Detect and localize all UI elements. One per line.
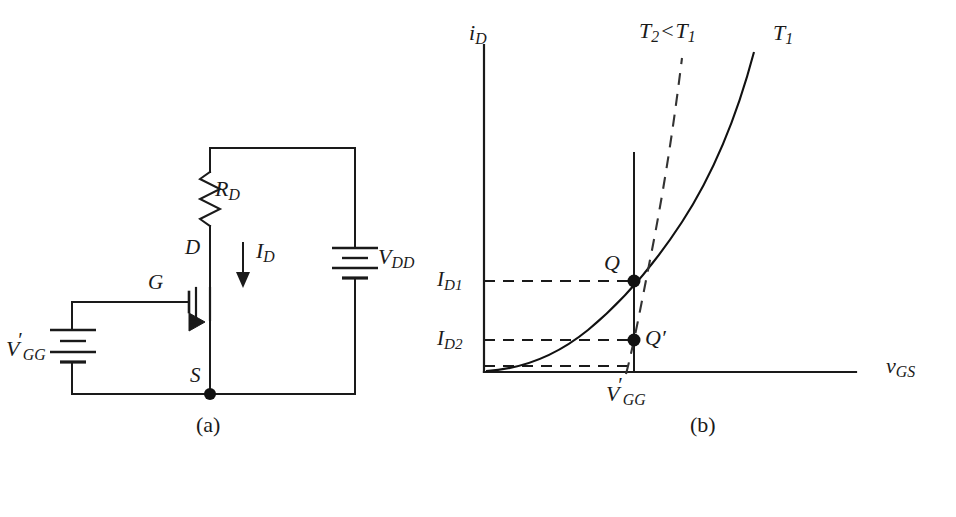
operating-point-Qprime-marker bbox=[628, 334, 641, 347]
annotation-temperature-relation: T2<T1 bbox=[639, 20, 696, 45]
battery-VGG-symbol bbox=[50, 330, 96, 372]
y-axis-label-iD: iD bbox=[469, 22, 487, 47]
label-VGG: V′GG bbox=[6, 330, 46, 363]
transfer-characteristic-chart bbox=[436, 0, 956, 420]
current-arrow-ID-head-icon bbox=[236, 272, 250, 288]
x-tick-label-VGG: V′GG bbox=[606, 375, 646, 408]
y-tick-label-ID1: ID1 bbox=[437, 269, 462, 293]
junction-dot-source bbox=[204, 388, 216, 400]
label-source-S: S bbox=[190, 365, 201, 386]
operating-point-Q-marker bbox=[628, 275, 641, 288]
y-tick-label-ID2: ID2 bbox=[437, 328, 462, 352]
label-VDD: VDD bbox=[378, 246, 414, 271]
label-operating-point-Qprime: Q′ bbox=[645, 327, 666, 349]
curve-T1 bbox=[486, 52, 754, 371]
x-axis-label-vGS: vGS bbox=[886, 355, 915, 380]
caption-b: (b) bbox=[690, 412, 716, 438]
caption-a: (a) bbox=[196, 412, 220, 438]
battery-VDD-symbol bbox=[332, 248, 378, 312]
label-operating-point-Q: Q bbox=[604, 252, 620, 274]
figure-root: RD D G S ID VDD V′GG (a) bbox=[0, 0, 956, 517]
label-RD: RD bbox=[215, 178, 240, 203]
label-gate-G: G bbox=[148, 272, 163, 293]
label-ID: ID bbox=[256, 240, 275, 265]
label-drain-D: D bbox=[185, 237, 200, 258]
curve-label-T1: T1 bbox=[773, 22, 793, 47]
circuit-diagram bbox=[0, 0, 460, 460]
